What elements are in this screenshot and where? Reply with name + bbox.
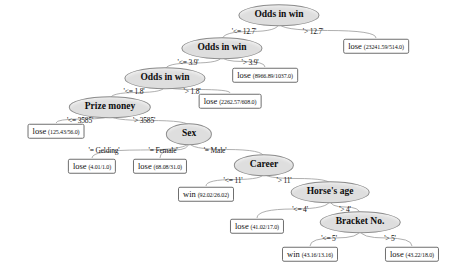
- leaf-node-stats: (68.08/31.0): [154, 164, 182, 170]
- leaf-node[interactable]: lose (41.02/17.0): [230, 219, 284, 234]
- decision-node-label: Odds in win: [140, 72, 189, 82]
- edge-label: '= Female': [149, 146, 178, 155]
- leaf-node-label: lose: [237, 70, 251, 80]
- edge-label: '<= 11': [224, 176, 243, 185]
- leaf-node[interactable]: lose (23241.59/514.0): [343, 39, 409, 54]
- leaf-node[interactable]: lose (8966.89/1037.0): [232, 68, 298, 83]
- leaf-node-stats: (41.02/17.0): [251, 224, 279, 230]
- edge-label: '<= 12.7': [232, 27, 256, 36]
- decision-node[interactable]: Horse's age: [291, 181, 370, 203]
- edge-label: '> 11': [277, 176, 292, 185]
- edge-label: '> 3.9': [242, 58, 259, 67]
- leaf-node-label: lose: [390, 249, 404, 259]
- edge-label: '> 5': [384, 234, 396, 243]
- decision-node-label: Horse's age: [307, 186, 354, 196]
- leaf-node[interactable]: lose (43.22/18.0): [385, 247, 439, 262]
- leaf-node[interactable]: win (43.16/13.16): [282, 247, 338, 262]
- leaf-node-label: lose: [235, 221, 249, 231]
- leaf-node[interactable]: lose (68.08/31.0): [133, 159, 187, 174]
- leaf-node[interactable]: lose (4.01/1.0): [68, 159, 116, 174]
- edge-label: '<= 5': [321, 234, 337, 243]
- edge-label: '<= 4': [292, 205, 308, 214]
- decision-node-label: Career: [250, 159, 278, 169]
- leaf-node-stats: (125.43/56.0): [48, 129, 79, 135]
- leaf-node-label: lose: [33, 126, 47, 136]
- decision-node-label: Odds in win: [197, 42, 246, 52]
- decision-node[interactable]: Career: [234, 154, 294, 176]
- leaf-node-stats: (8966.89/1037.0): [253, 73, 293, 79]
- leaf-node-stats: (2262.57/608.0): [219, 99, 256, 105]
- decision-node[interactable]: Bracket No.: [320, 211, 401, 233]
- leaf-node-stats: (23241.59/514.0): [364, 44, 404, 50]
- decision-node-label: Sex: [182, 128, 196, 138]
- leaf-node-label: win: [183, 189, 196, 199]
- edge-label: '> 12.7': [303, 27, 323, 36]
- decision-node[interactable]: Sex: [166, 123, 212, 145]
- leaf-node-stats: (43.16/13.16): [302, 252, 333, 258]
- edge-label: '> 3585': [133, 116, 155, 125]
- leaf-node-label: lose: [348, 41, 362, 51]
- leaf-node-label: win: [287, 249, 300, 259]
- edge-label: '= Male': [204, 146, 227, 155]
- leaf-node-stats: (4.01/1.0): [88, 164, 111, 170]
- leaf-node[interactable]: lose (2262.57/608.0): [199, 94, 262, 109]
- leaf-node-stats: (92.02/26.02): [198, 192, 229, 198]
- decision-node[interactable]: Odds in win: [124, 67, 205, 89]
- decision-node[interactable]: Prize money: [69, 96, 151, 118]
- decision-node[interactable]: Odds in win: [238, 4, 319, 26]
- leaf-node[interactable]: win (92.02/26.02): [178, 187, 234, 202]
- decision-node[interactable]: Odds in win: [181, 37, 262, 59]
- edge-label: '= Gelding': [89, 146, 120, 155]
- edge-label: '<= 1.8': [124, 87, 145, 96]
- edge-label: '<= 3.9': [178, 58, 199, 67]
- leaf-node-label: lose: [138, 161, 152, 171]
- leaf-node[interactable]: lose (125.43/56.0): [28, 124, 85, 139]
- decision-node-label: Prize money: [85, 101, 135, 111]
- decision-node-label: Odds in win: [254, 9, 303, 19]
- decision-tree-diagram: '<= 12.7''> 12.7''<= 3.9''> 3.9''<= 1.8'…: [0, 0, 460, 272]
- decision-node-label: Bracket No.: [336, 216, 385, 226]
- leaf-node-label: lose: [204, 96, 218, 106]
- leaf-node-label: lose: [73, 161, 87, 171]
- leaf-node-stats: (43.22/18.0): [406, 252, 434, 258]
